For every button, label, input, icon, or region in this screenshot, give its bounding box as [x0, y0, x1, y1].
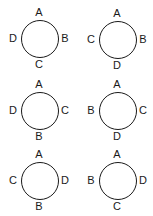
figure-6: A D C B [79, 142, 153, 214]
label-top: A [111, 8, 123, 19]
label-bottom: D [111, 131, 123, 142]
circle [99, 162, 137, 200]
label-right: B [137, 34, 149, 45]
label-bottom: C [33, 59, 45, 70]
label-top: A [33, 7, 45, 18]
label-left: B [85, 175, 97, 186]
circle [21, 20, 59, 58]
circle [99, 92, 137, 130]
label-left: C [7, 175, 19, 186]
figure-1: A B C D [1, 0, 77, 72]
label-right: C [137, 105, 149, 116]
label-right: C [59, 105, 71, 116]
label-top: A [111, 149, 123, 160]
label-bottom: B [33, 201, 45, 212]
label-left: D [7, 105, 19, 116]
figure-2: A B D C [79, 1, 153, 73]
label-right: D [59, 175, 71, 186]
figure-5: A D B C [1, 142, 77, 214]
label-bottom: C [111, 201, 123, 212]
label-top: A [111, 79, 123, 90]
label-left: D [7, 33, 19, 44]
figure-3: A C B D [1, 72, 77, 144]
label-right: B [59, 33, 71, 44]
label-top: A [33, 79, 45, 90]
label-left: C [85, 34, 97, 45]
label-right: D [137, 175, 149, 186]
figure-4: A C D B [79, 72, 153, 144]
label-top: A [33, 149, 45, 160]
label-left: B [85, 105, 97, 116]
circle [21, 92, 59, 130]
label-bottom: B [33, 131, 45, 142]
label-bottom: D [111, 60, 123, 71]
circle [99, 21, 137, 59]
circle [21, 162, 59, 200]
